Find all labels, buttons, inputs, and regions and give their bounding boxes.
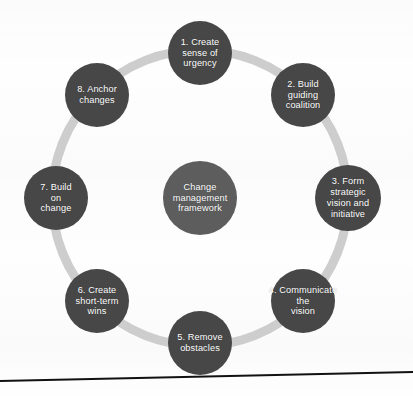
hub-circle[interactable] (163, 161, 237, 235)
step-1-create-sense-of-urgency[interactable] (168, 21, 232, 85)
step-6-create-short-term-wins[interactable] (65, 269, 129, 333)
step-4-communicate-the-vision[interactable] (271, 269, 335, 333)
step-2-build-guiding-coalition[interactable] (271, 63, 335, 127)
change-management-cycle-diagram (0, 0, 413, 396)
step-7-build-on-change[interactable] (24, 166, 88, 230)
step-3-form-strategic-vision[interactable] (315, 165, 381, 231)
step-8-anchor-changes[interactable] (65, 63, 129, 127)
step-5-remove-obstacles[interactable] (168, 311, 232, 375)
